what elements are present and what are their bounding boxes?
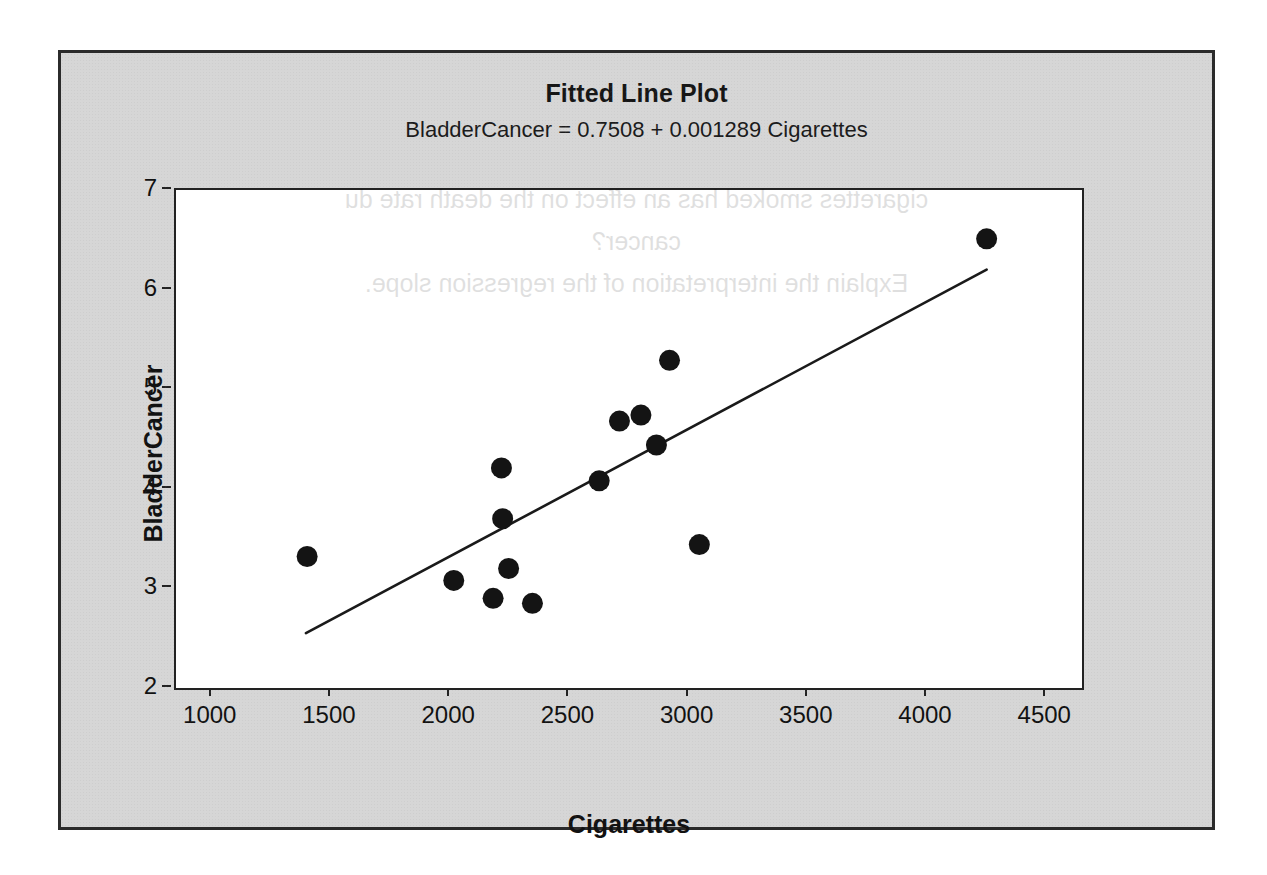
scatter-point	[689, 534, 710, 555]
scatter-point	[646, 434, 667, 455]
y-tick-mark	[162, 486, 171, 488]
scatter-point	[492, 508, 513, 529]
y-tick-mark	[162, 585, 171, 587]
scatter-point	[589, 470, 610, 491]
plot-area	[174, 188, 1084, 690]
figure-frame: Fitted Line Plot BladderCancer = 0.7508 …	[58, 50, 1215, 830]
x-tick-label: 4500	[1018, 701, 1071, 729]
y-tick-label: 4	[109, 473, 157, 501]
x-tick-label: 4000	[898, 701, 951, 729]
scatter-point	[498, 558, 519, 579]
scatter-point	[976, 228, 997, 249]
y-tick-label: 5	[109, 373, 157, 401]
chart-title: Fitted Line Plot	[61, 79, 1212, 108]
x-tick-label: 2500	[541, 701, 594, 729]
x-tick-label: 2000	[421, 701, 474, 729]
x-tick-label: 1000	[183, 701, 236, 729]
scatter-plot-svg	[176, 190, 1082, 688]
figure-page: Fitted Line Plot BladderCancer = 0.7508 …	[0, 0, 1267, 875]
y-tick-mark	[162, 685, 171, 687]
y-tick-label: 2	[109, 672, 157, 700]
scatter-point	[659, 350, 680, 371]
y-tick-mark	[162, 187, 171, 189]
x-tick-label: 3000	[660, 701, 713, 729]
y-tick-label: 3	[109, 572, 157, 600]
scatter-point	[522, 593, 543, 614]
y-tick-label: 6	[109, 274, 157, 302]
y-tick-label: 7	[109, 174, 157, 202]
regression-fit-line	[306, 270, 987, 634]
y-tick-mark	[162, 386, 171, 388]
scatter-point	[483, 588, 504, 609]
chart-subtitle: BladderCancer = 0.7508 + 0.001289 Cigare…	[61, 117, 1212, 143]
y-axis-title: BladderCancer	[139, 304, 168, 604]
y-tick-mark	[162, 287, 171, 289]
scatter-point	[297, 546, 318, 567]
scatter-point	[609, 411, 630, 432]
scatter-point	[491, 457, 512, 478]
x-axis-title: Cigarettes	[174, 810, 1084, 839]
x-tick-label: 1500	[302, 701, 355, 729]
scatter-point	[443, 570, 464, 591]
scatter-point	[630, 405, 651, 426]
x-tick-label: 3500	[779, 701, 832, 729]
